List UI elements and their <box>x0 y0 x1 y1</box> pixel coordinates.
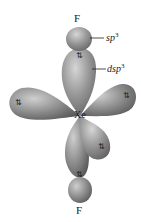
dsp3-label-sup: 3 <box>121 62 125 70</box>
dsp3-label-base: dsp <box>107 63 121 74</box>
orbital-diagram <box>0 0 141 222</box>
sp3-label-base: sp <box>106 32 115 43</box>
electron-pair-icon: ⇅ <box>76 52 81 60</box>
electron-pair-icon: ⇅ <box>98 143 103 151</box>
electron-pair-icon: ⇅ <box>123 92 128 100</box>
xenon-label: Xe <box>74 110 86 120</box>
top-fluorine-label: F <box>74 13 80 24</box>
top-sp3-lobe <box>66 27 92 51</box>
electron-pair-icon: ⇅ <box>76 171 81 179</box>
electron-pair-icon: ⇅ <box>15 99 20 107</box>
sp3-label: sp3 <box>106 33 118 43</box>
bottom-fluorine-label: F <box>76 205 82 216</box>
dsp3-label: dsp3 <box>107 64 124 74</box>
sp3-label-sup: 3 <box>115 31 119 39</box>
bottom-sp3-lobe <box>68 177 92 203</box>
